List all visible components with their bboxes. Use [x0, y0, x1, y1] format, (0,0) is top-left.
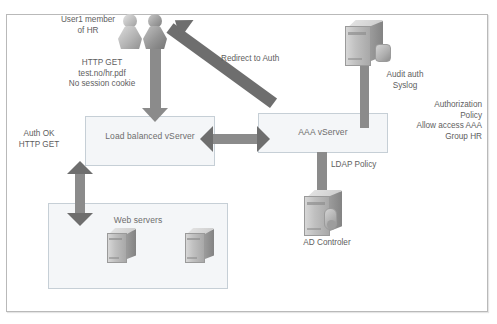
zone-label-load-balanced-vserver: Load balanced vServer	[86, 131, 214, 141]
tower-slot2	[187, 257, 197, 259]
arrow-lb-to-webservers-head-down	[67, 213, 93, 226]
label-ldap-policy: LDAP Policy	[331, 160, 401, 171]
label-redirect-to-auth: Redirect to Auth	[221, 54, 311, 65]
label-authorization-policy: Authorization Policy Allow access AAA Gr…	[381, 100, 482, 142]
label-ad-controller: AD Controler	[288, 238, 366, 249]
tower-slot	[307, 202, 325, 205]
diagram-canvas: Load balanced vServer AAA vServer Web se…	[0, 0, 497, 324]
person-head	[148, 14, 162, 28]
tower-slot	[348, 32, 366, 35]
tower-slot	[109, 238, 122, 240]
tower-side	[127, 229, 136, 259]
tower-slot2	[348, 58, 362, 60]
label-auth-ok-http-get: Auth OK HTTP GET	[8, 129, 70, 150]
tower-knob	[324, 208, 337, 230]
arrow-user-to-lb-shaft	[150, 48, 161, 110]
label-user1-member-of-hr: User1 member of HR	[52, 15, 124, 36]
tower-knob	[375, 44, 391, 62]
arrow-lb-to-webservers-shaft	[75, 172, 85, 216]
tower-slot	[187, 238, 200, 240]
arrow-lb-to-aaa-head-left	[200, 126, 213, 152]
tower-slot2	[307, 228, 321, 230]
zone-load-balanced-vserver: Load balanced vServer	[85, 116, 215, 166]
person-head	[123, 14, 137, 28]
arrow-lb-to-aaa-head-right	[257, 126, 270, 152]
tower-slot2	[109, 257, 119, 259]
label-http-get-request: HTTP GET test.no/hr.pdf No session cooki…	[55, 58, 149, 90]
arrow-user-to-lb-head	[142, 108, 168, 122]
arrow-lb-to-webservers-head-up	[67, 161, 93, 174]
label-audit-auth-syslog: Audit auth Syslog	[374, 70, 436, 91]
zone-label-aaa-vserver: AAA vServer	[259, 127, 387, 137]
tower-side	[205, 229, 214, 259]
